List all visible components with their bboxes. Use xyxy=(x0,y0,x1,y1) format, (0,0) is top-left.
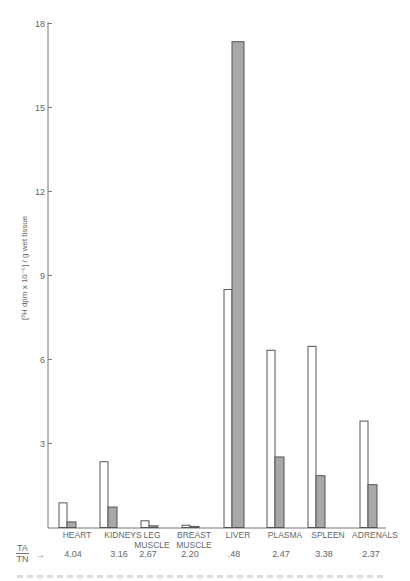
bar-ta xyxy=(224,290,232,528)
y-tick-label: 3 xyxy=(40,439,45,449)
bar-ta xyxy=(141,521,149,528)
y-tick-label: 15 xyxy=(35,103,45,113)
bar-ta xyxy=(182,525,190,527)
bar-ta xyxy=(100,462,108,528)
ratio-value: 2.37 xyxy=(362,549,380,559)
bar-ta xyxy=(59,503,67,528)
x-tick-label: HEART xyxy=(63,530,92,540)
x-tick-label: BREAST xyxy=(177,530,211,540)
x-tick-label: KIDNEYS xyxy=(104,530,142,540)
bar-ta xyxy=(267,350,275,527)
ratio-value: 3.16 xyxy=(110,549,128,559)
arrow-icon: → xyxy=(35,549,45,560)
ratio-value: 2.67 xyxy=(139,549,157,559)
ratio-value: 2.20 xyxy=(181,549,199,559)
bar-tn xyxy=(108,507,117,527)
bar-tn xyxy=(368,485,377,528)
ratio-label: TA TN xyxy=(16,543,29,564)
x-tick-label: SPLEEN xyxy=(311,530,345,540)
bar-tn xyxy=(67,522,76,528)
x-tick-label: LEG xyxy=(143,530,160,540)
ratio-denominator: TN xyxy=(16,554,28,564)
ratio-value: 4.04 xyxy=(64,549,82,559)
bar-chart: 369121518 HEARTKIDNEYSLEGMUSCLEBREASTMUS… xyxy=(0,0,410,581)
y-tick-label: 12 xyxy=(35,187,45,197)
ratio-value: 2.47 xyxy=(272,549,290,559)
y-tick-label: 6 xyxy=(40,355,45,365)
ratio-values: 4.043.162.672.20.482.473.382.37 xyxy=(64,549,380,559)
y-tick-label: 18 xyxy=(35,19,45,29)
bar-tn xyxy=(190,526,199,527)
ratio-value: 3.38 xyxy=(315,549,333,559)
x-tick-labels: HEARTKIDNEYSLEGMUSCLEBREASTMUSCLELIVERPL… xyxy=(63,530,399,550)
y-axis-label: [³H dpm x 10⁻⁵] / g wet tissue xyxy=(20,216,29,320)
bar-tn xyxy=(275,457,284,528)
bars xyxy=(59,42,377,528)
bar-tn xyxy=(232,42,244,528)
y-ticks: 369121518 xyxy=(35,19,52,449)
bar-ta xyxy=(360,421,368,527)
x-tick-label: ADRENALS xyxy=(352,530,398,540)
ratio-numerator: TA xyxy=(16,543,29,554)
x-tick-label: PLASMA xyxy=(268,530,303,540)
ratio-value: .48 xyxy=(228,549,241,559)
figure-caption-cut-off xyxy=(17,575,387,578)
bar-ta xyxy=(308,346,316,527)
x-tick-label: LIVER xyxy=(226,530,251,540)
bar-tn xyxy=(149,526,158,528)
y-tick-label: 9 xyxy=(40,271,45,281)
bar-tn xyxy=(316,476,325,528)
